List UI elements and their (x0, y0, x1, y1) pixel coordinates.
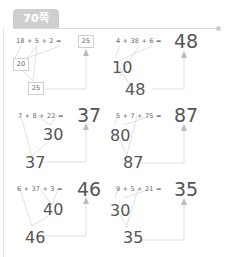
answer-5: 46 (77, 178, 101, 200)
final-5: 46 (25, 228, 45, 247)
equation-6: 9 + 5 + 21 = (116, 185, 162, 193)
answer-6: 35 (174, 178, 198, 200)
answer-4: 87 (174, 104, 198, 126)
equation-2: 4 + 38 + 6 = (116, 37, 162, 45)
partial-6: 30 (110, 201, 130, 220)
final-3: 37 (25, 153, 45, 172)
final-6: 35 (123, 228, 143, 247)
partial-2: 10 (112, 58, 132, 77)
equation-1: 18 + 5 + 2 = (16, 37, 62, 45)
answer-3: 37 (77, 104, 101, 126)
equation-4: 5 + 7 + 75 = (116, 112, 162, 120)
final-2: 48 (125, 80, 145, 99)
equation-3: 7 + 8 + 22 = (18, 112, 64, 120)
partial-4: 80 (110, 126, 130, 145)
equation-5: 6 + 37 + 3 = (17, 185, 63, 193)
partial-box-1: 20 (13, 58, 29, 71)
partial-3: 30 (43, 125, 63, 144)
answer-2: 48 (174, 30, 198, 52)
final-box-1: 25 (28, 82, 44, 95)
final-4: 87 (123, 153, 143, 172)
answer-box-1: 25 (78, 35, 94, 48)
partial-5: 40 (43, 200, 63, 219)
